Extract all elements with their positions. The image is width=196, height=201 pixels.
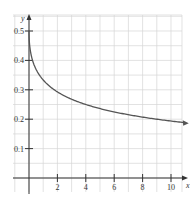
axes bbox=[13, 14, 188, 194]
y-tick-label: 0.3 bbox=[14, 86, 24, 95]
ticks: 2468100.10.20.30.40.5 bbox=[14, 27, 175, 192]
y-axis-label: y bbox=[20, 14, 25, 23]
x-tick-label: 8 bbox=[141, 183, 145, 192]
x-tick-label: 4 bbox=[84, 183, 88, 192]
x-tick-label: 6 bbox=[112, 183, 116, 192]
x-axis-arrow-icon bbox=[182, 176, 188, 181]
x-tick-label: 2 bbox=[55, 183, 59, 192]
y-tick-label: 0.4 bbox=[14, 56, 24, 65]
chart: 2468100.10.20.30.40.5 x y bbox=[0, 0, 196, 201]
grid bbox=[13, 15, 182, 192]
data-curve bbox=[29, 31, 184, 123]
x-axis-label: x bbox=[185, 181, 190, 190]
y-tick-label: 0.2 bbox=[14, 115, 24, 124]
x-tick-label: 10 bbox=[167, 183, 175, 192]
y-tick-label: 0.5 bbox=[14, 27, 24, 36]
y-tick-label: 0.1 bbox=[14, 145, 24, 154]
curve-arrow-icon bbox=[183, 120, 189, 126]
